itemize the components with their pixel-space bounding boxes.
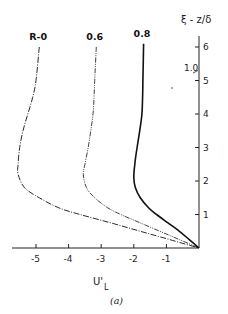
x-axis-title-subscript: L (104, 283, 109, 292)
y-tick-label: 3 (203, 143, 209, 153)
labels: R-00.60.8 (29, 28, 151, 42)
x-tick-label: -1 (161, 254, 170, 264)
x-tick-label: -5 (31, 254, 40, 264)
y-tick-label: 4 (203, 109, 209, 119)
x-axis-title: U' (93, 276, 103, 287)
y-axis-title: ξ - z/δ (181, 14, 211, 25)
stray-dot (171, 87, 173, 89)
y-tick-label: 5 (203, 76, 209, 86)
series-curve-0.6 (83, 47, 199, 248)
x-tick-label: -2 (129, 254, 138, 264)
y-tick-label: 2 (203, 176, 209, 186)
curves (18, 44, 199, 248)
y-tick-label: 6 (203, 42, 209, 52)
series-label: R-0 (29, 31, 47, 42)
axes: -5-4-3-2-1123456 (12, 36, 209, 264)
chart: -5-4-3-2-1123456 R-00.60.8 ξ - z/δ U' L … (0, 0, 228, 314)
series-curve-R-0 (18, 47, 199, 248)
x-tick-label: -4 (64, 254, 73, 264)
x-tick-label: -3 (96, 254, 105, 264)
y-tick-label: 1 (203, 210, 209, 220)
series-label: 0.8 (134, 28, 151, 39)
series-curve-0.8 (134, 44, 199, 248)
annotation-r-1.0: 1.0 (184, 63, 199, 73)
figure-caption: (a) (110, 295, 123, 306)
series-label: 0.6 (86, 31, 103, 42)
